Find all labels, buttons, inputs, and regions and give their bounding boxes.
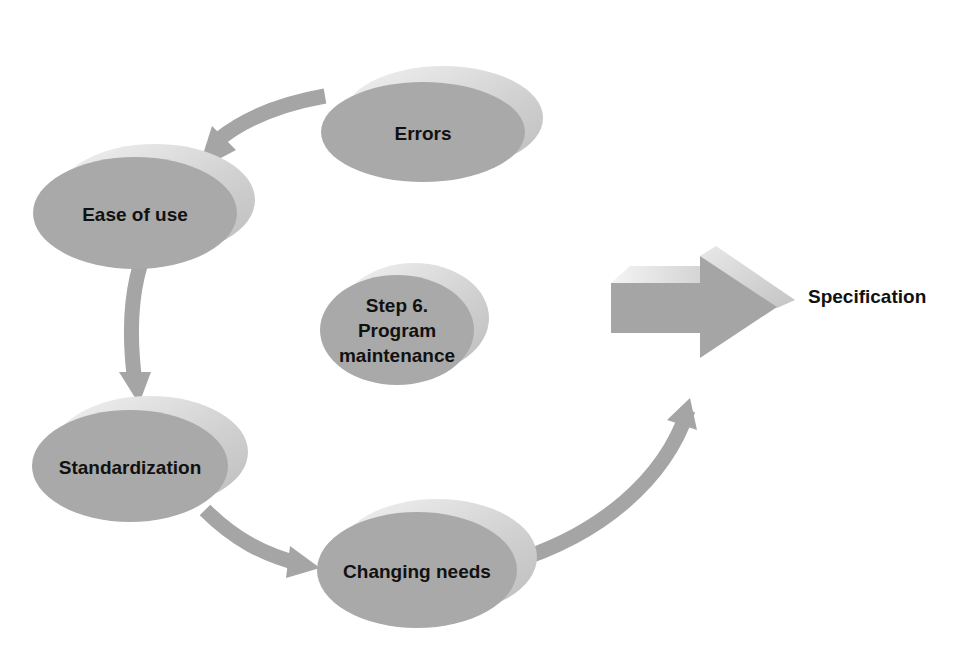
- center-label-line1: Step 6.: [366, 295, 428, 316]
- arrow-changing-to-spec: [512, 398, 697, 562]
- output-arrow: [611, 246, 795, 358]
- node-changing-label: Changing needs: [343, 561, 491, 582]
- node-errors-label: Errors: [394, 123, 451, 144]
- center-label-line3: maintenance: [339, 345, 455, 366]
- output-arrow-bevel: [611, 266, 715, 283]
- node-standardization: Standardization: [32, 396, 248, 522]
- node-ease-label: Ease of use: [82, 204, 188, 225]
- node-standard-label: Standardization: [59, 457, 202, 478]
- output-label-specification: Specification: [808, 286, 926, 307]
- center-label-line2: Program: [358, 320, 436, 341]
- arrow-ease-to-standard: [119, 266, 151, 404]
- node-errors: Errors: [321, 66, 543, 182]
- node-ease-of-use: Ease of use: [33, 144, 255, 269]
- diagram-canvas: Errors Ease of use Step 6. Program maint…: [0, 0, 968, 649]
- arrow-standard-to-changing: [205, 510, 320, 578]
- node-changing-needs: Changing needs: [317, 499, 537, 628]
- center-step-6: Step 6. Program maintenance: [320, 263, 489, 385]
